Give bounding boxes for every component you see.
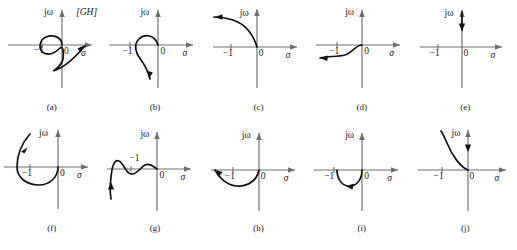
minus-one-label: −1 — [129, 154, 139, 164]
origin-label: 0 — [470, 172, 475, 182]
minus-one-label: −1 — [223, 49, 233, 59]
real-axis-arrowhead — [495, 44, 502, 50]
real-axis-label: σ — [182, 49, 187, 59]
real-axis-arrowhead — [85, 42, 92, 48]
origin-label: 0 — [259, 49, 264, 59]
real-axis-arrowhead — [393, 42, 400, 48]
real-axis-label: σ — [495, 174, 500, 184]
imaginary-axis-arrowhead — [254, 9, 260, 16]
panel-g: jω σ 0 −1 (g) — [103, 125, 206, 250]
panel-row-top: jω [GH] σ 0 −1 (a) jω σ 0 −1 (b) — [0, 0, 517, 125]
real-axis-label: σ — [180, 173, 185, 183]
origin-label: 0 — [60, 169, 65, 179]
imaginary-axis-arrowhead — [155, 132, 161, 139]
real-axis-arrowhead — [186, 42, 193, 48]
minus-one-label: −1 — [122, 47, 132, 57]
curve-direction-arrowhead — [108, 182, 114, 190]
minus-one-label: −1 — [430, 49, 440, 59]
nyquist-curve — [337, 170, 362, 186]
origin-label: 0 — [464, 49, 469, 59]
real-axis-label: σ — [491, 51, 496, 61]
imaginary-axis-arrowhead — [55, 130, 61, 137]
curve-direction-arrowhead — [215, 14, 222, 20]
imaginary-axis-arrowhead — [156, 10, 162, 17]
curve-direction-arrowhead — [458, 24, 464, 31]
panel-caption: (e) — [414, 103, 517, 112]
real-axis-arrowhead — [391, 167, 398, 173]
origin-label: 0 — [64, 47, 69, 57]
real-axis-arrowhead — [290, 44, 297, 50]
panel-caption: (i) — [310, 224, 413, 233]
nyquist-curve — [136, 36, 158, 79]
minus-one-label: −1 — [34, 46, 44, 56]
panel-f: jω σ 0 −1 (f) — [0, 125, 103, 250]
panel-caption: (d) — [310, 103, 413, 112]
imaginary-axis-label: jω — [345, 131, 354, 141]
imaginary-axis-arrowhead — [359, 10, 365, 17]
imaginary-axis-label: jω — [44, 8, 53, 18]
panel-caption: (c) — [207, 103, 310, 112]
real-axis-arrowhead — [184, 166, 191, 172]
minus-one-label: −1 — [329, 47, 339, 57]
panel-caption: (h) — [207, 224, 310, 233]
origin-label: 0 — [364, 172, 369, 182]
origin-label: 0 — [159, 171, 164, 181]
nyquist-plot-figure: jω [GH] σ 0 −1 (a) jω σ 0 −1 (b) — [0, 0, 517, 250]
real-axis-label: σ — [387, 174, 392, 184]
origin-label: 0 — [261, 172, 266, 182]
panel-d: jω σ 0 −1 (d) — [310, 0, 413, 125]
curve-direction-arrowhead — [21, 147, 28, 153]
real-axis-label: σ — [286, 51, 291, 61]
origin-label: 0 — [160, 47, 165, 57]
real-axis-label: σ — [81, 49, 86, 59]
origin-label: 0 — [364, 47, 369, 57]
panel-caption: (b) — [103, 103, 206, 112]
panel-caption: (a) — [0, 103, 103, 112]
panel-e: jω σ 0 −1 (e) — [414, 0, 517, 125]
real-axis-arrowhead — [288, 167, 295, 173]
nyquist-curve — [214, 17, 257, 47]
real-axis-label: σ — [284, 174, 289, 184]
panel-row-bottom: jω σ 0 −1 (f) jω σ 0 −1 (g) — [0, 125, 517, 250]
panel-b: jω σ 0 −1 (b) — [103, 0, 206, 125]
panel-j: jω σ 0 −1 (j) — [414, 125, 517, 250]
imaginary-axis-label: jω — [452, 129, 461, 139]
panel-i: jω σ 0 −1 (i) — [310, 125, 413, 250]
transfer-function-tag: [GH] — [76, 8, 97, 18]
imaginary-axis-label: jω — [242, 131, 251, 141]
panel-h: jω σ 0 −1 (h) — [207, 125, 310, 250]
real-axis-arrowhead — [499, 167, 506, 173]
minus-one-label: −1 — [434, 172, 444, 182]
panel-caption: (j) — [414, 224, 517, 233]
panel-a: jω [GH] σ 0 −1 (a) — [0, 0, 103, 125]
minus-one-label: −1 — [324, 172, 334, 182]
minus-one-label: −1 — [225, 172, 235, 182]
imaginary-axis-label: jω — [140, 8, 149, 18]
real-axis-label: σ — [389, 49, 394, 59]
imaginary-axis-arrowhead — [465, 130, 471, 137]
imaginary-axis-arrowhead — [359, 133, 365, 140]
real-axis-label: σ — [77, 171, 82, 181]
nyquist-curve — [111, 161, 158, 199]
imaginary-axis-label: jω — [240, 9, 249, 19]
minus-one-label: −1 — [22, 169, 32, 179]
panel-caption: (f) — [0, 224, 103, 233]
curve-direction-arrowhead — [320, 55, 328, 61]
real-axis-arrowhead — [81, 164, 88, 170]
curve-direction-arrowhead — [346, 183, 354, 189]
panel-caption: (g) — [103, 224, 206, 233]
curve-direction-arrowhead — [464, 144, 470, 152]
panel-c: jω σ 0 −1 (c) — [207, 0, 310, 125]
imaginary-axis-label: jω — [140, 130, 149, 140]
imaginary-axis-label: jω — [345, 8, 354, 18]
imaginary-axis-arrowhead — [59, 10, 65, 17]
imaginary-axis-label: jω — [445, 9, 454, 19]
imaginary-axis-arrowhead — [256, 133, 262, 140]
imaginary-axis-label: jω — [39, 129, 48, 139]
